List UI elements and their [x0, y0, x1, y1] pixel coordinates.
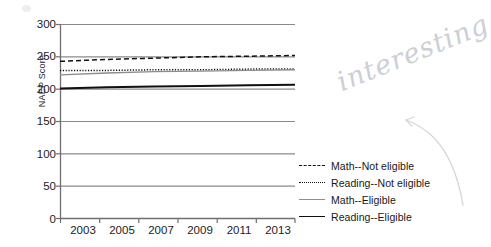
legend-item-reading-eligible: Reading--Eligible [299, 209, 471, 225]
series-line-2 [60, 70, 295, 75]
series-line-3 [60, 85, 295, 89]
y-axis-ticks [56, 25, 61, 219]
x-tick-2013: 2013 [255, 224, 301, 236]
chart-legend: Math--Not eligible Reading--Not eligible… [299, 158, 471, 226]
legend-item-math-eligible: Math--Eligible [299, 192, 471, 208]
solid-black-line-icon [299, 212, 325, 222]
legend-label: Math--Eligible [331, 194, 396, 206]
data-series-group [60, 56, 295, 89]
dashed-line-icon [299, 161, 325, 171]
legend-label: Math--Not eligible [331, 160, 414, 172]
legend-label: Reading--Eligible [331, 211, 412, 223]
x-axis-ticks [61, 219, 296, 224]
gridlines [60, 25, 295, 187]
legend-label: Reading--Not eligible [331, 177, 430, 189]
legend-item-reading-not-eligible: Reading--Not eligible [299, 175, 471, 191]
solid-gray-line-icon [299, 195, 325, 205]
dotted-line-icon [299, 178, 325, 188]
legend-item-math-not-eligible: Math--Not eligible [299, 158, 471, 174]
